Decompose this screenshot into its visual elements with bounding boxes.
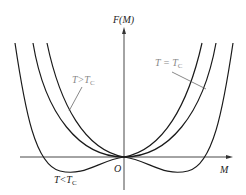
label-t-equal-tc: T = TC bbox=[155, 58, 182, 70]
label-sub: C bbox=[178, 62, 183, 70]
curve-t-equal-tc bbox=[33, 43, 216, 157]
x-axis-label: M bbox=[220, 165, 228, 175]
landau-free-energy-diagram bbox=[0, 0, 246, 195]
label-t-greater-tc: T>TC bbox=[72, 75, 95, 87]
label-sub: C bbox=[72, 179, 77, 187]
leader-line-t-greater-tc bbox=[69, 87, 82, 111]
label-main: T = T bbox=[155, 57, 178, 68]
origin-label: O bbox=[114, 164, 121, 174]
label-t-less-tc: T<TC bbox=[54, 175, 77, 187]
label-sub: C bbox=[90, 79, 95, 87]
y-axis-label: F(M) bbox=[113, 15, 134, 25]
x-axis-arrow-icon bbox=[226, 155, 233, 159]
label-main: T>T bbox=[72, 74, 90, 85]
y-axis-arrow-icon bbox=[122, 27, 126, 34]
label-main: T<T bbox=[54, 174, 72, 185]
